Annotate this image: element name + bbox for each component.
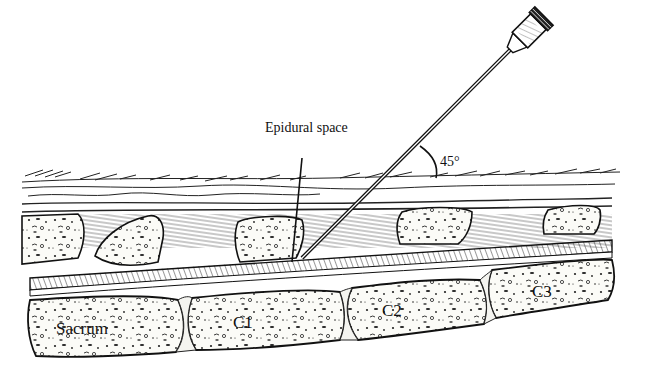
label-angle: 45° bbox=[440, 154, 460, 169]
label-sacrum: Sacrum bbox=[56, 319, 108, 338]
fat-layer bbox=[22, 184, 615, 212]
angle-arc bbox=[420, 146, 437, 178]
epidural-diagram: Sacrum C1 C2 C3 Epidural space 45° bbox=[0, 0, 646, 370]
c2-body bbox=[347, 279, 486, 340]
illustration-canvas: Sacrum C1 C2 C3 Epidural space 45° bbox=[0, 0, 646, 370]
label-epidural-space: Epidural space bbox=[265, 120, 348, 135]
skin-surface bbox=[22, 169, 620, 182]
c1-body bbox=[188, 290, 345, 350]
label-c1: C1 bbox=[233, 313, 253, 332]
label-c2: C2 bbox=[382, 301, 402, 320]
label-c3: C3 bbox=[532, 282, 552, 301]
